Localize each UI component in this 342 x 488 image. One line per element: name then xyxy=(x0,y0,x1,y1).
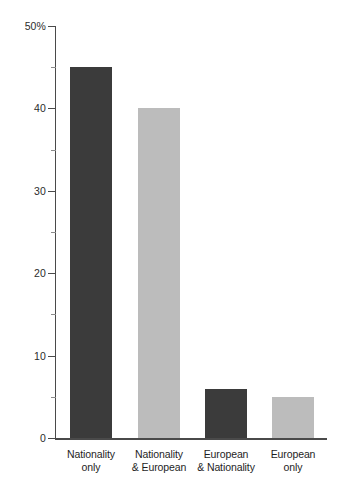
y-tick-label: 10 xyxy=(0,351,46,362)
y-tick-major xyxy=(48,356,56,357)
bar-chart: 01020304050% NationalityonlyNationality&… xyxy=(0,0,342,488)
bar-4 xyxy=(272,397,314,438)
y-tick-minor xyxy=(51,67,56,68)
y-tick-minor xyxy=(51,314,56,315)
x-axis-label-line: European xyxy=(243,448,342,461)
y-tick-label: 40 xyxy=(0,103,46,114)
y-tick-label: 0 xyxy=(0,433,46,444)
x-axis-label-line: only xyxy=(243,461,342,474)
y-tick-label: 20 xyxy=(0,268,46,279)
y-tick-minor xyxy=(51,150,56,151)
y-tick-label: 30 xyxy=(0,186,46,197)
x-axis-baseline xyxy=(55,438,327,440)
bar-1 xyxy=(70,67,112,438)
y-tick-major xyxy=(48,108,56,109)
y-tick-major xyxy=(48,191,56,192)
bar-3 xyxy=(205,389,247,438)
bar-2 xyxy=(138,108,180,438)
y-tick-minor xyxy=(51,232,56,233)
y-tick-major xyxy=(48,273,56,274)
y-tick-label: 50% xyxy=(0,21,46,32)
y-tick-major xyxy=(48,438,56,439)
y-tick-minor xyxy=(51,397,56,398)
y-tick-major xyxy=(48,26,56,27)
x-axis-label-4: Europeanonly xyxy=(243,448,342,473)
